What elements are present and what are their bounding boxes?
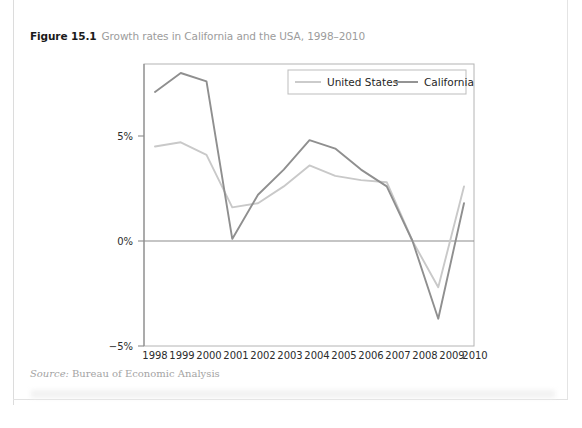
y-tick-label-0: 0% bbox=[117, 236, 133, 247]
legend-label-united-states: United States bbox=[327, 76, 398, 88]
plot-frame bbox=[144, 64, 474, 346]
x-tick-label-2005: 2005 bbox=[331, 350, 356, 361]
line-chart-svg: 5% 0% −5% 1998 1999 2000 2001 2002 2003 … bbox=[0, 0, 582, 428]
x-tick-label-1999: 1999 bbox=[169, 350, 194, 361]
y-tick-label-5: 5% bbox=[117, 131, 133, 142]
x-tick-label-2007: 2007 bbox=[385, 350, 410, 361]
source-value: Bureau of Economic Analysis bbox=[72, 368, 220, 379]
x-tick-label-2009: 2009 bbox=[439, 350, 464, 361]
x-tick-label-2001: 2001 bbox=[223, 350, 248, 361]
x-tick-label-1998: 1998 bbox=[142, 350, 167, 361]
figure-page: Figure 15.1Growth rates in California an… bbox=[0, 0, 582, 428]
x-tick-label-2004: 2004 bbox=[304, 350, 329, 361]
x-tick-label-2002: 2002 bbox=[250, 350, 275, 361]
legend-label-california: California bbox=[424, 76, 474, 88]
x-tick-label-2008: 2008 bbox=[412, 350, 437, 361]
source-note: Source:Bureau of Economic Analysis bbox=[30, 368, 220, 379]
x-tick-label-2003: 2003 bbox=[277, 350, 302, 361]
x-tick-label-2010: 2010 bbox=[462, 350, 487, 361]
x-tick-label-2006: 2006 bbox=[358, 350, 383, 361]
chart-plot-area: 5% 0% −5% 1998 1999 2000 2001 2002 2003 … bbox=[0, 0, 582, 428]
source-label: Source: bbox=[30, 368, 69, 379]
y-tick-label-minus5: −5% bbox=[109, 341, 133, 352]
x-tick-label-2000: 2000 bbox=[196, 350, 221, 361]
